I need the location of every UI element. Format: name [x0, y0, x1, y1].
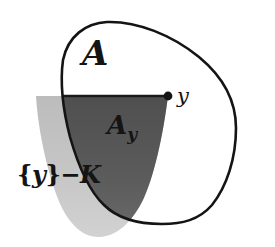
- diagram-svg: [0, 0, 275, 247]
- label-section-ay-subscript: y: [127, 124, 137, 144]
- cone-open-brace: {: [17, 160, 32, 189]
- apex-point-y: [164, 92, 173, 101]
- label-section-ay: Ay: [107, 112, 137, 143]
- cone-close-brace: }: [45, 160, 60, 189]
- label-point-y: y: [177, 86, 189, 107]
- cone-minus-operator: −: [60, 160, 80, 189]
- cone-point-y: y: [32, 160, 45, 189]
- label-cone-expression: {y}−K: [17, 163, 100, 187]
- cone-set-k: K: [80, 160, 100, 189]
- label-section-ay-base: A: [107, 110, 127, 140]
- label-set-a: A: [82, 36, 108, 70]
- figure-canvas: A Ay {y}−K y: [0, 0, 275, 247]
